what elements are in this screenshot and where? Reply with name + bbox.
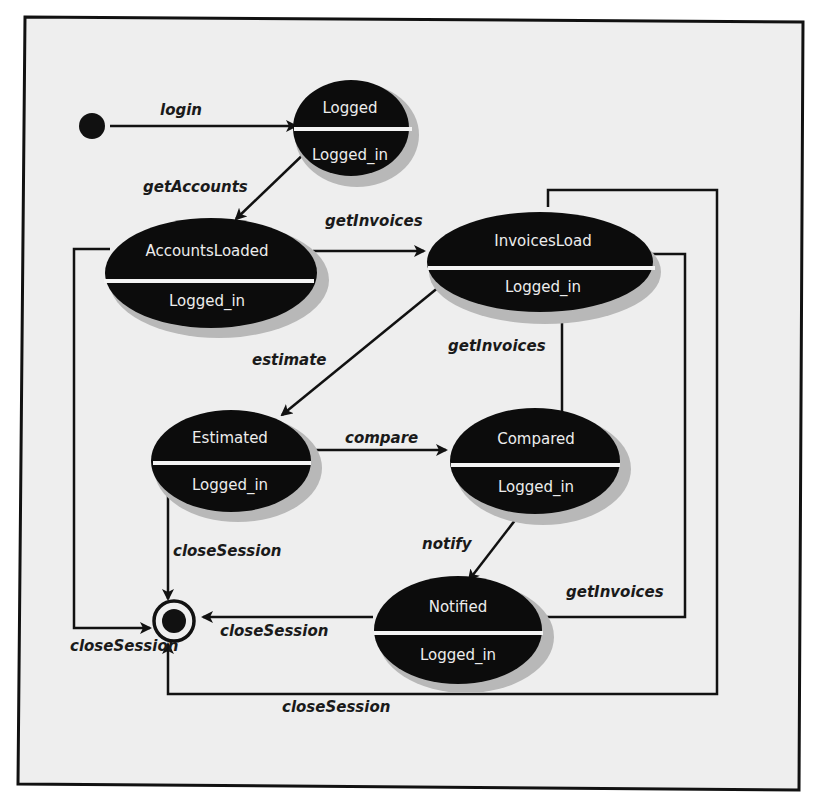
label-get-invoices-2: getInvoices	[448, 337, 546, 355]
label-close-session-invoices: closeSession	[282, 698, 390, 716]
state-name: InvoicesLoad	[494, 232, 591, 250]
label-notify: notify	[422, 535, 473, 553]
state-substate: Logged_in	[192, 476, 268, 495]
label-close-session-estimated: closeSession	[173, 542, 281, 560]
state-substate: Logged_in	[420, 646, 496, 665]
state-substate: Logged_in	[312, 146, 388, 165]
label-get-invoices-3: getInvoices	[566, 583, 664, 601]
label-compare: compare	[345, 429, 418, 447]
label-get-accounts: getAccounts	[143, 178, 248, 196]
label-get-invoices-1: getInvoices	[325, 212, 423, 230]
label-estimate: estimate	[252, 351, 327, 369]
state-diagram: Logged Logged_in AccountsLoaded Logged_i…	[0, 0, 816, 805]
state-name: Estimated	[192, 429, 268, 447]
label-login: login	[160, 101, 202, 119]
label-close-session-accounts: closeSession	[70, 637, 178, 655]
state-name: Notified	[429, 598, 488, 616]
final-state-icon	[154, 601, 194, 641]
label-close-session-notified: closeSession	[220, 622, 328, 640]
state-substate: Logged_in	[498, 478, 574, 497]
initial-state-icon	[79, 113, 105, 139]
state-substate: Logged_in	[505, 278, 581, 297]
state-name: AccountsLoaded	[145, 242, 268, 260]
state-name: Logged	[322, 99, 377, 117]
state-substate: Logged_in	[169, 292, 245, 311]
state-name: Compared	[497, 430, 575, 448]
